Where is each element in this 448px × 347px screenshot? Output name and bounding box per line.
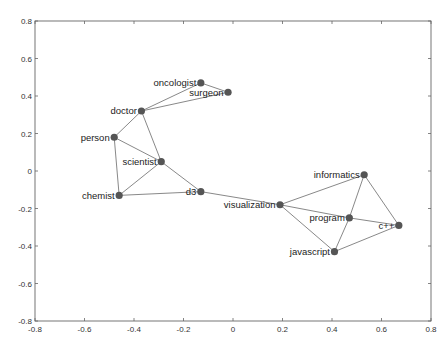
node-marker [224, 89, 231, 96]
x-tick-label: -0.8 [28, 325, 42, 334]
node-chemist: chemist [82, 190, 123, 201]
node-marker [197, 188, 204, 195]
node-label: javascript [289, 246, 330, 257]
node-marker [361, 171, 368, 178]
node-marker [138, 107, 145, 114]
y-tick-label: -0.4 [18, 242, 32, 251]
node-label: program [309, 212, 344, 223]
node-label: informatics [314, 169, 360, 180]
node-label: surgeon [189, 87, 223, 98]
node-visualization: visualization [224, 199, 284, 210]
node-label: chemist [82, 190, 115, 201]
x-tick-label: 0.2 [277, 325, 289, 334]
node-marker [276, 201, 283, 208]
axis-ticks: -0.8-0.6-0.4-0.200.20.40.60.80.80.60.40.… [18, 17, 437, 334]
network-embedding-chart: -0.8-0.6-0.4-0.200.20.40.60.80.80.60.40.… [0, 0, 448, 347]
edge-informatics-cpp [364, 175, 399, 226]
node-doctor: doctor [111, 105, 146, 116]
node-marker [158, 158, 165, 165]
y-tick-label: 0 [28, 167, 33, 176]
plot-area-box [35, 21, 431, 321]
node-cpp: c++ [378, 220, 402, 231]
node-marker [346, 214, 353, 221]
edge-informatics-program [349, 175, 364, 218]
y-tick-label: -0.2 [18, 205, 32, 214]
graph-nodes: oncologistsurgeondoctorpersonscientistch… [81, 77, 403, 257]
edge-doctor-scientist [141, 111, 161, 162]
y-tick-label: -0.6 [18, 280, 32, 289]
node-marker [197, 79, 204, 86]
y-tick-label: 0.4 [21, 92, 33, 101]
node-label: scientist [122, 156, 157, 167]
node-javascript: javascript [289, 246, 338, 257]
edge-person-chemist [114, 137, 119, 195]
x-tick-label: 0.8 [425, 325, 437, 334]
node-label: doctor [111, 105, 137, 116]
x-tick-label: -0.6 [78, 325, 92, 334]
node-marker [331, 248, 338, 255]
y-tick-label: 0.2 [21, 130, 33, 139]
node-marker [111, 134, 118, 141]
y-tick-label: -0.8 [18, 317, 32, 326]
node-label: person [81, 132, 110, 143]
node-person: person [81, 132, 118, 143]
x-tick-label: -0.4 [127, 325, 141, 334]
x-tick-label: -0.2 [177, 325, 191, 334]
y-tick-label: 0.8 [21, 17, 33, 26]
x-tick-label: 0 [231, 325, 236, 334]
node-label: c++ [378, 220, 394, 231]
node-informatics: informatics [314, 169, 368, 180]
y-tick-label: 0.6 [21, 55, 33, 64]
node-label: d3 [186, 186, 197, 197]
node-program: program [309, 212, 352, 223]
x-tick-label: 0.6 [376, 325, 388, 334]
node-marker [116, 192, 123, 199]
x-tick-label: 0.4 [326, 325, 338, 334]
graph-edges [114, 83, 399, 252]
node-label: visualization [224, 199, 276, 210]
node-d3: d3 [186, 186, 205, 197]
node-scientist: scientist [122, 156, 164, 167]
node-marker [395, 222, 402, 229]
node-surgeon: surgeon [189, 87, 231, 98]
